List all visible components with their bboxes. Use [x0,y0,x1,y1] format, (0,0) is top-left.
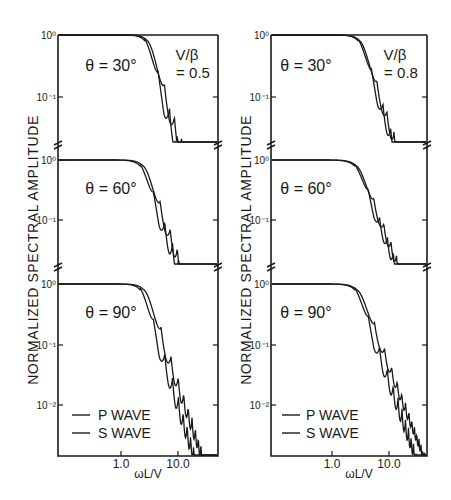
left-panel: NORMALIZED SPECTRAL AMPLITUDE 1 [25,30,222,481]
tick-label: 10⁰ [41,30,56,41]
legend-s-wave: S WAVE [306,425,359,441]
p-wave-curve [59,160,217,264]
tick-label: 10⁻¹ [250,340,270,351]
legend-p-wave: P WAVE [306,407,359,423]
tick-label: 10⁰ [41,155,56,166]
tick-label: 10⁻¹ [37,92,57,103]
left-y-ticks [58,35,218,456]
right-panel: NORMALIZED SPECTRAL AMPLITUDE 10⁰ 10⁻¹ 1… [238,30,431,481]
tick-label: 10.0 [166,457,190,471]
tick-label: 10⁻¹ [37,340,57,351]
left-theta-90-label: θ = 90° [85,304,136,321]
tick-label: 10⁰ [254,279,269,290]
left-xlabel: ωL/V [134,467,161,481]
left-param-label: V/β [176,46,199,63]
right-frame [271,35,427,456]
right-theta-30-label: θ = 30° [280,57,331,74]
tick-label: 10⁻¹ [250,215,270,226]
figure-spectral-amplitude: NORMALIZED SPECTRAL AMPLITUDE 1 [0,0,451,500]
tick-label: 10⁻² [250,400,270,411]
right-xlabel: ωL/V [345,467,372,481]
tick-label: 10⁰ [254,155,269,166]
tick-label: 10⁰ [254,30,269,41]
left-theta-30-label: θ = 30° [85,57,136,74]
tick-label: 10⁻¹ [250,92,270,103]
p-wave-curve [272,160,426,264]
tick-label: 10⁰ [41,279,56,290]
tick-label: 10⁻² [37,400,57,411]
legend-s-wave: S WAVE [98,425,151,441]
right-theta-60-label: θ = 60° [280,180,331,197]
left-legend: P WAVE S WAVE [72,407,151,441]
s-wave-curve [272,160,426,264]
right-theta-90-label: θ = 90° [280,304,331,321]
left-frame [58,35,218,456]
right-param-label: V/β [384,46,407,63]
right-curves [272,35,426,455]
tick-label: 10⁻¹ [37,215,57,226]
left-param-value: = 0.5 [176,64,210,81]
s-wave-curve [59,160,217,264]
right-legend: P WAVE S WAVE [282,407,359,441]
legend-p-wave: P WAVE [98,407,151,423]
left-theta-60-label: θ = 60° [85,180,136,197]
tick-label: 1.0 [324,457,341,471]
tick-label: 10.0 [377,457,401,471]
tick-label: 1.0 [113,457,130,471]
left-curves [59,35,217,455]
right-y-ticks [271,97,427,456]
right-param-value: = 0.8 [384,64,418,81]
